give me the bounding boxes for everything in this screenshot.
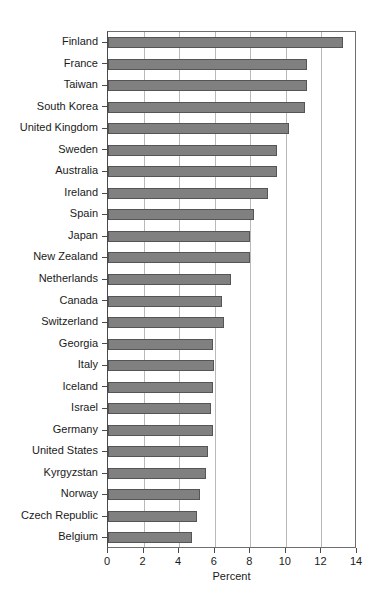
x-axis-label: 2 xyxy=(128,555,158,567)
horizontal-bar-chart: FinlandFranceTaiwanSouth KoreaUnited Kin… xyxy=(0,0,378,600)
bar-row xyxy=(108,377,355,399)
bar xyxy=(108,296,222,307)
bar xyxy=(108,59,307,70)
bar-row xyxy=(108,291,355,313)
bar xyxy=(108,209,254,220)
bar-row xyxy=(108,484,355,506)
y-axis-label: Norway xyxy=(61,483,98,505)
y-axis-label: Netherlands xyxy=(39,268,98,290)
bar xyxy=(108,123,289,134)
bar xyxy=(108,382,213,393)
bar xyxy=(108,446,208,457)
bar-row xyxy=(108,398,355,420)
x-axis-tick xyxy=(143,548,144,553)
bar xyxy=(108,274,231,285)
bar-row xyxy=(108,161,355,183)
y-axis-label: Finland xyxy=(62,31,98,53)
bar-row xyxy=(108,226,355,248)
bar-row xyxy=(108,204,355,226)
bar xyxy=(108,360,214,371)
x-axis-tick xyxy=(107,548,108,553)
bar xyxy=(108,317,224,328)
x-axis-label: 6 xyxy=(199,555,229,567)
bar-row xyxy=(108,97,355,119)
bar xyxy=(108,37,343,48)
bar xyxy=(108,145,277,156)
y-axis-label: Georgia xyxy=(59,333,98,355)
bar-row xyxy=(108,140,355,162)
plot-area xyxy=(107,31,356,548)
bar-row xyxy=(108,32,355,54)
y-axis-label: Belgium xyxy=(58,526,98,548)
bar-row xyxy=(108,334,355,356)
bar-row xyxy=(108,75,355,97)
x-axis-label: 12 xyxy=(305,555,335,567)
bar-row xyxy=(108,118,355,140)
bar-row xyxy=(108,312,355,334)
y-axis-label: South Korea xyxy=(37,96,98,118)
y-axis-label: Spain xyxy=(70,203,98,225)
bar xyxy=(108,102,305,113)
y-axis-label: Canada xyxy=(59,290,98,312)
x-axis-tick xyxy=(320,548,321,553)
bar-row xyxy=(108,441,355,463)
x-axis-title: Percent xyxy=(107,570,356,582)
y-axis-label: France xyxy=(64,53,98,75)
bar xyxy=(108,188,268,199)
x-axis-tick xyxy=(356,548,357,553)
bar xyxy=(108,403,211,414)
bar xyxy=(108,489,200,500)
y-axis-label: Sweden xyxy=(58,139,98,161)
bar-row xyxy=(108,355,355,377)
y-axis-label: New Zealand xyxy=(33,246,98,268)
y-axis-label: Iceland xyxy=(63,376,98,398)
bar-row xyxy=(108,269,355,291)
bar-row xyxy=(108,54,355,76)
bar xyxy=(108,80,307,91)
y-axis-label: United Kingdom xyxy=(20,117,98,139)
y-axis-label: Germany xyxy=(53,419,98,441)
y-axis-label: Israel xyxy=(71,397,98,419)
x-axis-tick xyxy=(285,548,286,553)
y-axis-label: United States xyxy=(32,440,98,462)
y-axis: FinlandFranceTaiwanSouth KoreaUnited Kin… xyxy=(0,31,107,548)
x-axis-label: 14 xyxy=(341,555,371,567)
bar xyxy=(108,252,250,263)
x-axis-label: 0 xyxy=(92,555,122,567)
y-axis-label: Switzerland xyxy=(41,311,98,333)
bar xyxy=(108,339,213,350)
bar-row xyxy=(108,247,355,269)
bar xyxy=(108,166,277,177)
x-axis-label: 4 xyxy=(163,555,193,567)
y-axis-label: Japan xyxy=(68,225,98,247)
y-axis-label: Kyrgyzstan xyxy=(44,462,98,484)
x-axis-label: 8 xyxy=(234,555,264,567)
y-axis-label: Taiwan xyxy=(64,74,98,96)
bar-row xyxy=(108,506,355,528)
bar xyxy=(108,511,197,522)
x-axis-tick xyxy=(214,548,215,553)
bar-row xyxy=(108,463,355,485)
y-axis-label: Italy xyxy=(78,354,98,376)
y-axis-label: Czech Republic xyxy=(21,505,98,527)
bar xyxy=(108,532,192,543)
bar-row xyxy=(108,420,355,442)
y-axis-label: Australia xyxy=(55,160,98,182)
x-axis-tick xyxy=(178,548,179,553)
y-axis-label: Ireland xyxy=(64,182,98,204)
bar xyxy=(108,425,213,436)
x-axis-label: 10 xyxy=(270,555,300,567)
bar xyxy=(108,231,250,242)
bar-row xyxy=(108,183,355,205)
bar-rows xyxy=(108,32,355,547)
bar-row xyxy=(108,527,355,549)
bar xyxy=(108,468,206,479)
x-axis-tick xyxy=(249,548,250,553)
